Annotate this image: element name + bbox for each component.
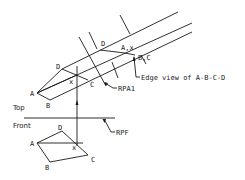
label-aux-bc: B,C xyxy=(138,54,151,62)
projection-line-d xyxy=(62,12,178,69)
label-front-d: D xyxy=(58,124,62,132)
projection-lines xyxy=(37,12,192,100)
perpendicular-tick-1 xyxy=(120,15,130,34)
label-front-c: C xyxy=(91,156,95,164)
label-front-b: B xyxy=(45,164,49,172)
label-rpa1: RPA1 xyxy=(118,85,135,93)
descriptive-geometry-diagram: A B C D x D A,x B,C Top Front A B C D x … xyxy=(0,0,245,180)
label-top-x: x xyxy=(69,78,73,86)
rpf-leader xyxy=(104,119,115,132)
label-front-x: x xyxy=(72,144,76,152)
label-top-b: B xyxy=(46,102,50,110)
label-aux-ax: A,x xyxy=(121,44,134,52)
top-view-edge-a-d xyxy=(37,69,62,93)
leaders xyxy=(103,56,141,132)
view-label-top: Top xyxy=(12,104,25,112)
front-view-plane xyxy=(37,131,88,162)
label-top-c: C xyxy=(90,81,94,89)
label-top-d: D xyxy=(56,63,60,71)
label-edge-view: Edge view of A-B-C-D xyxy=(141,74,225,82)
label-top-a: A xyxy=(30,90,35,98)
view-label-front: Front xyxy=(13,122,31,130)
front-view-outline xyxy=(37,131,88,162)
top-view-edge-a-b xyxy=(37,93,50,100)
label-front-a: A xyxy=(30,140,35,148)
arrowhead-up-icon xyxy=(76,100,79,105)
label-rpf: RPF xyxy=(116,129,129,137)
perpendicular-tick-2 xyxy=(89,32,97,49)
top-view-edge-d-c xyxy=(62,69,88,80)
label-aux-d: D xyxy=(101,40,105,48)
projection-line-a xyxy=(37,23,192,93)
edge-view-arrowhead-icon xyxy=(133,56,136,61)
